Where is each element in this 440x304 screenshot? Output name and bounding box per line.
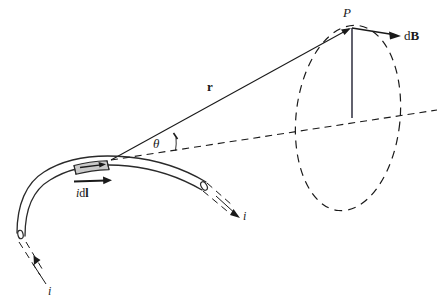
current-left-label: i (48, 285, 51, 297)
vector-r-line (111, 28, 351, 160)
current-element-label: idl (76, 187, 89, 199)
idl-l-glyph: l (85, 186, 88, 200)
vector-db-label: dB (404, 29, 419, 42)
biot-savart-figure: P r θ dB idl i i (0, 0, 440, 304)
figure-canvas (0, 0, 440, 304)
current-carrying-wire (17, 156, 209, 239)
current-continuation-left (19, 242, 46, 284)
point-p-label: P (343, 6, 351, 19)
dashed-axis-line (111, 110, 437, 160)
angle-arc-theta (174, 133, 178, 151)
current-continuation-right (203, 183, 240, 218)
current-right-label: i (243, 210, 246, 222)
current-element-direction-arrow (74, 177, 112, 185)
vector-r-label: r (207, 80, 213, 93)
db-b-glyph: B (411, 28, 420, 43)
magnetic-field-circle (287, 20, 410, 216)
angle-theta-label: θ (153, 137, 159, 150)
current-element-segment (74, 161, 109, 175)
